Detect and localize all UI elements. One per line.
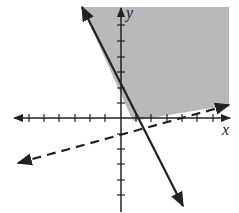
inequality-graph: x y [0,0,239,213]
y-axis-label: y [124,4,134,22]
dashed-boundary-line [18,105,229,163]
x-axis-label: x [221,121,229,138]
shaded-solution-region [82,7,229,121]
